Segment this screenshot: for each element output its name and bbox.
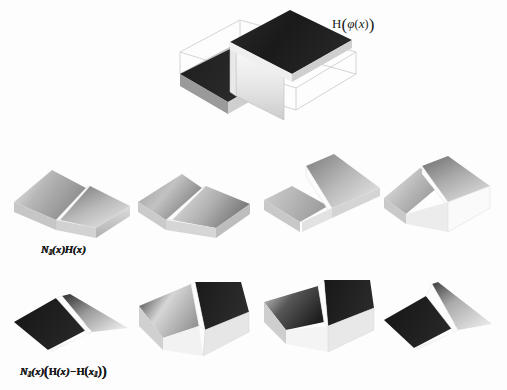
- panel-n1h: [12, 158, 134, 240]
- panel-n3-shift: [258, 278, 380, 360]
- panel-n3h: [262, 152, 384, 242]
- top-label-H: H: [332, 16, 342, 31]
- caption-n4s-mid: (x): [31, 365, 44, 377]
- shape-function-n1-times-heaviside: [12, 158, 134, 240]
- shape-function-n2-times-heaviside: [136, 160, 258, 242]
- shifted-enrichment-n2: [133, 278, 255, 360]
- base-front-face: [286, 326, 328, 352]
- top-label-phi: φ: [347, 16, 354, 31]
- panel-n4-shift: [380, 278, 504, 360]
- heaviside-step-surface: [178, 12, 358, 137]
- shifted-enrichment-n3: [258, 278, 380, 360]
- shifted-enrichment-n4: [380, 278, 504, 360]
- top-panel-label: H(φ(x)): [332, 15, 374, 35]
- panel-n2h: [136, 160, 258, 242]
- panel-n2-shift: [133, 278, 255, 360]
- top-surface-panel: [178, 12, 358, 137]
- top-label-close-paren: ): [369, 15, 375, 34]
- caption-n4h-rest: (x)H(x): [52, 243, 85, 255]
- shifted-enrichment-n1: [12, 278, 134, 360]
- panel-n1-shift: [12, 278, 134, 360]
- shape-function-n4-times-heaviside: [382, 152, 504, 242]
- caption-n4h: N4(x)H(x): [0, 243, 126, 257]
- figure-canvas: H(φ(x)): [0, 0, 507, 390]
- caption-n4s-close: ): [101, 364, 106, 379]
- shape-function-n3-times-heaviside: [262, 152, 384, 242]
- caption-n4s-x: (x): [56, 365, 69, 377]
- caption-n4-shift: N4(x)(H(x)−H(x4)): [0, 364, 126, 380]
- panel-n4h: [382, 152, 504, 242]
